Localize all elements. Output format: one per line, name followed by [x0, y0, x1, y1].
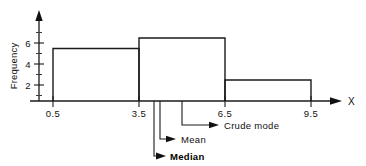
x-tick-label-3-5: 3.5 [132, 108, 146, 119]
crude-mode-leader [182, 101, 209, 125]
histogram-bar-0 [53, 49, 139, 102]
x-axis-arrow-icon [330, 97, 342, 105]
x-tick-label-9-5: 9.5 [304, 108, 318, 119]
x-axis-title: X [348, 96, 355, 107]
median-label: Median [170, 151, 205, 162]
annotation-group: Crude mode Mean Median [154, 101, 279, 162]
x-tick-label-6-5: 6.5 [218, 108, 232, 119]
histogram-bar-2 [225, 80, 311, 101]
median-arrow-icon [156, 153, 166, 160]
median-leader [154, 101, 156, 156]
crude-mode-label: Crude mode [224, 120, 279, 131]
y-tick-label-2: 2 [25, 80, 31, 91]
mean-arrow-icon [166, 136, 176, 142]
mean-leader [160, 101, 166, 139]
y-tick-label-4: 4 [25, 59, 31, 70]
crude-mode-arrow-icon [209, 122, 219, 128]
histogram-bar-1 [139, 38, 225, 101]
histogram-bars [53, 38, 311, 101]
mean-label: Mean [181, 134, 206, 145]
y-axis-title: Frequency [8, 43, 19, 90]
histogram-canvas: 2 4 6 Frequency X 0.5 3.5 6.5 9.5 [0, 0, 366, 166]
y-axis-group: 2 4 6 Frequency [8, 10, 44, 101]
x-tick-label-0-5: 0.5 [46, 108, 60, 119]
histogram-figure: 2 4 6 Frequency X 0.5 3.5 6.5 9.5 [0, 0, 366, 166]
y-tick-label-6: 6 [25, 38, 31, 49]
y-axis-arrow-icon [35, 10, 42, 21]
x-axis-group: X 0.5 3.5 6.5 9.5 [30, 96, 355, 120]
